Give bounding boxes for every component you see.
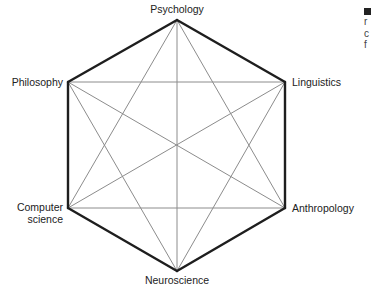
inner-connections	[68, 20, 285, 271]
node-label-computer-science: Computer science	[17, 201, 63, 225]
hexagon-edge	[177, 20, 285, 82]
hexagon-edge	[68, 208, 177, 271]
cropped-text-line: r	[364, 16, 378, 28]
legend-marker-square	[364, 8, 371, 15]
node-label-neuroscience: Neuroscience	[0, 274, 354, 286]
node-label-computer-science-line1: Computer	[17, 201, 63, 213]
node-label-computer-science-line2: science	[17, 213, 63, 225]
node-label-linguistics: Linguistics	[292, 76, 341, 88]
cognitive-science-hexagon-diagram	[0, 0, 378, 289]
cropped-text-line: f	[364, 39, 378, 51]
node-label-psychology: Psychology	[0, 3, 354, 15]
cropped-side-text: r c f	[364, 8, 378, 51]
hexagon-edge	[68, 20, 177, 82]
cropped-text-line: c	[364, 28, 378, 40]
diagonal-connection	[68, 82, 177, 271]
node-label-philosophy: Philosophy	[12, 76, 63, 88]
hexagon-edge	[177, 208, 285, 271]
node-label-anthropology: Anthropology	[292, 202, 354, 214]
diagonal-connection	[177, 20, 285, 208]
